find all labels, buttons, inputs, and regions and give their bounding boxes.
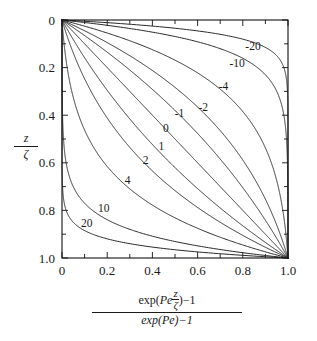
curve-label-4: 4 — [125, 174, 131, 186]
x-tick-label: 0 — [59, 263, 66, 278]
curve-set — [62, 20, 288, 258]
peclet-profile-chart: -20-10-4-2-101241020 00.20.40.60.81.000.… — [0, 0, 317, 341]
y-tick-label: 0.4 — [39, 108, 56, 123]
y-axis-label: z ζ — [14, 132, 38, 160]
x-axis-label-numerator: exp(Pezζ)−1 — [92, 288, 242, 313]
pe-symbol: Pe — [160, 293, 173, 307]
curve-label-0: 0 — [163, 122, 169, 134]
curve-label-neg4: -4 — [219, 80, 229, 92]
y-tick-label: 1.0 — [39, 251, 55, 266]
curve-pe-0 — [62, 20, 288, 258]
x-tick-label: 0.6 — [189, 263, 206, 278]
x-tick-label: 0.2 — [99, 263, 115, 278]
curve-label-neg1: -1 — [175, 107, 185, 119]
tick-labels: 00.20.40.60.81.000.20.40.60.81.0 — [39, 13, 296, 279]
curve-label-neg10: -10 — [229, 57, 245, 69]
curve-label-1: 1 — [159, 140, 165, 152]
y-tick-label: 0 — [49, 13, 56, 28]
y-axis-label-denominator: ζ — [14, 147, 38, 161]
y-tick-label: 0.6 — [39, 155, 56, 170]
curve-label-neg20: -20 — [245, 40, 261, 52]
curve-label-2: 2 — [143, 154, 149, 166]
x-tick-label: 0.4 — [144, 263, 161, 278]
x-tick-label: 0.8 — [235, 263, 251, 278]
curve-label-20: 20 — [81, 217, 93, 229]
x-axis-label: exp(Pezζ)−1 exp(Pe)−1 — [92, 288, 242, 328]
y-axis-label-numerator: z — [14, 132, 38, 147]
curve-label-neg2: -2 — [198, 101, 208, 113]
minus-one: −1 — [183, 293, 196, 307]
y-tick-label: 0.2 — [39, 60, 55, 75]
y-tick-label: 0.8 — [39, 203, 55, 218]
exp-text: exp — [138, 293, 155, 307]
x-tick-label: 1.0 — [280, 263, 296, 278]
curve-label-10: 10 — [98, 202, 110, 214]
x-axis-label-denominator: exp(Pe)−1 — [92, 313, 242, 328]
